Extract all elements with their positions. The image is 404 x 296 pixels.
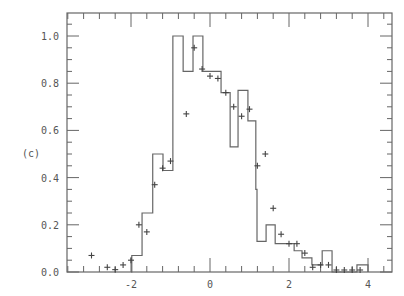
plot-frame [67, 13, 392, 272]
y-tick-label: 0.2 [41, 220, 59, 231]
y-tick-label: 0.4 [41, 173, 59, 184]
histogram-step-line [131, 36, 368, 272]
y-tick-label: 0.8 [41, 78, 59, 89]
x-axis-tick-labels: -2024 [125, 279, 371, 290]
x-tick-label: 2 [286, 279, 292, 290]
x-tick-label: -2 [125, 279, 137, 290]
y-tick-label: 0.0 [41, 267, 59, 278]
y-tick-label: 0.6 [41, 125, 59, 136]
panel-label: (c) [22, 148, 40, 159]
x-tick-label: 0 [207, 279, 213, 290]
y-tick-label: 1.0 [41, 31, 59, 42]
y-axis-tick-labels: 0.00.20.40.60.81.0 [41, 31, 59, 278]
x-tick-label: 4 [365, 279, 371, 290]
axis-ticks [67, 13, 392, 272]
histogram-chart: -2024 0.00.20.40.60.81.0 (c) [0, 0, 404, 296]
data-point-markers [89, 45, 364, 273]
